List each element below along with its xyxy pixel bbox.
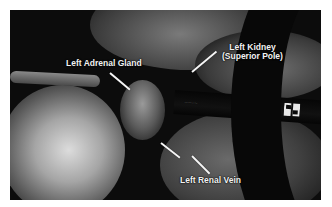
kidney-region [195, 30, 321, 100]
left-instrument-shaft [10, 71, 100, 88]
instrument-fine-print: ……… [184, 99, 198, 105]
instrument-brand-text: COVIDIEN [234, 102, 266, 110]
lower-right-tissue [160, 110, 321, 200]
surgical-photo: ……… COVIDIEN [10, 10, 321, 200]
label-left-kidney-line2: (Superior Pole) [222, 52, 283, 61]
label-left-adrenal-gland: Left Adrenal Gland [66, 59, 142, 68]
label-left-renal-vein: Left Renal Vein [180, 176, 241, 185]
label-left-kidney: Left Kidney (Superior Pole) [222, 43, 283, 61]
left-bright-organ [10, 85, 125, 200]
covidien-logo-icon [283, 103, 300, 117]
